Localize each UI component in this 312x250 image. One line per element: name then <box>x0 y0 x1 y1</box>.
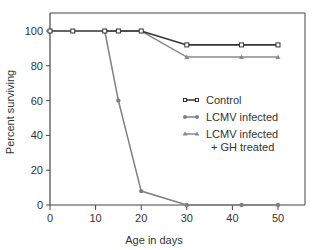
data-point <box>239 203 243 207</box>
data-point <box>48 29 52 33</box>
x-tick-label: 10 <box>89 212 101 224</box>
filled-circle-marker-icon <box>195 115 199 119</box>
x-tick-label: 30 <box>181 212 193 224</box>
data-point <box>139 29 143 33</box>
legend-item-lcmv: LCMV infected <box>183 111 278 123</box>
x-tick-label: 40 <box>226 212 238 224</box>
x-tick-label: 50 <box>272 212 284 224</box>
open-square-marker-icon <box>184 99 187 102</box>
data-point <box>71 29 75 33</box>
series-lcmv-infected-gh-treated <box>102 29 280 59</box>
data-point <box>276 43 280 47</box>
data-point <box>276 203 280 207</box>
legend-label-control: Control <box>206 94 241 106</box>
filled-circle-marker-icon <box>183 115 187 119</box>
y-tick-label: 20 <box>31 164 43 176</box>
data-point <box>139 189 143 193</box>
x-tick-label: 20 <box>135 212 147 224</box>
survival-chart: 020406080100 01020304050 Age in days Per… <box>0 0 312 250</box>
data-point <box>116 98 120 102</box>
y-axis-ticks: 020406080100 <box>25 25 50 211</box>
x-tick-label: 0 <box>47 212 53 224</box>
legend-item-lcmv-gh: LCMV infected + GH treated <box>183 128 279 153</box>
data-point <box>185 43 189 47</box>
x-axis-ticks: 01020304050 <box>47 205 284 224</box>
data-point <box>185 203 189 207</box>
y-tick-label: 80 <box>31 60 43 72</box>
legend-label-lcmv: LCMV infected <box>206 111 278 123</box>
data-point <box>116 29 120 33</box>
legend-label-lcmv-gh-2: + GH treated <box>211 141 274 153</box>
data-point <box>240 43 244 47</box>
y-tick-label: 100 <box>25 25 43 37</box>
y-tick-label: 40 <box>31 129 43 141</box>
legend-item-control: Control <box>184 94 242 106</box>
legend-label-lcmv-gh-1: LCMV infected <box>206 128 278 140</box>
y-tick-label: 0 <box>37 199 43 211</box>
data-point <box>103 29 107 33</box>
open-square-marker-icon <box>196 99 199 102</box>
y-tick-label: 60 <box>31 95 43 107</box>
x-axis-label: Age in days <box>125 234 183 246</box>
legend: Control LCMV infected LCMV infected + GH… <box>183 94 279 153</box>
y-axis-label: Percent surviving <box>4 70 16 154</box>
